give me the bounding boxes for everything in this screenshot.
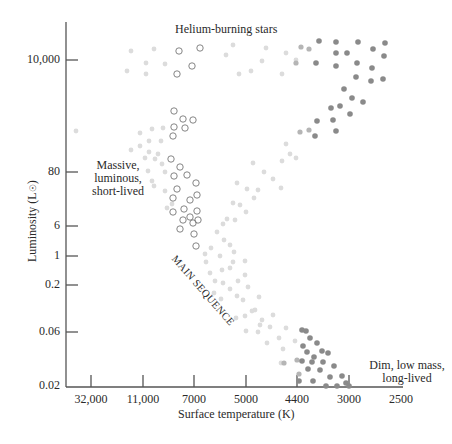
x-tick-label: 5000 — [221, 392, 271, 407]
x-tick-label: 2500 — [376, 392, 426, 407]
y-tick-label: 0.06 — [10, 324, 60, 339]
sun-symbol: ☉ — [28, 184, 38, 192]
x-tick-label: 4400 — [272, 392, 322, 407]
annotation-massive: Massive, luminous, short-lived — [82, 159, 154, 198]
y-tick-label: 80 — [10, 164, 60, 179]
x-tick-label: 7000 — [169, 392, 219, 407]
y-tick-label: 0.2 — [10, 277, 60, 292]
x-axis-label: Surface temperature (K) — [178, 407, 295, 422]
y-axis-label: Luminosity (L☉) — [25, 180, 40, 262]
x-tick-label: 11,000 — [118, 392, 168, 407]
x-tick-label: 32,000 — [66, 392, 116, 407]
star-points — [74, 38, 388, 389]
y-tick-label: 0.02 — [10, 378, 60, 393]
y-tick-label: 10,000 — [10, 52, 60, 67]
chart-title: Helium-burning stars — [175, 22, 277, 37]
annotation-dim: Dim, low mass, long-lived — [362, 359, 452, 385]
x-tick-label: 3000 — [324, 392, 374, 407]
